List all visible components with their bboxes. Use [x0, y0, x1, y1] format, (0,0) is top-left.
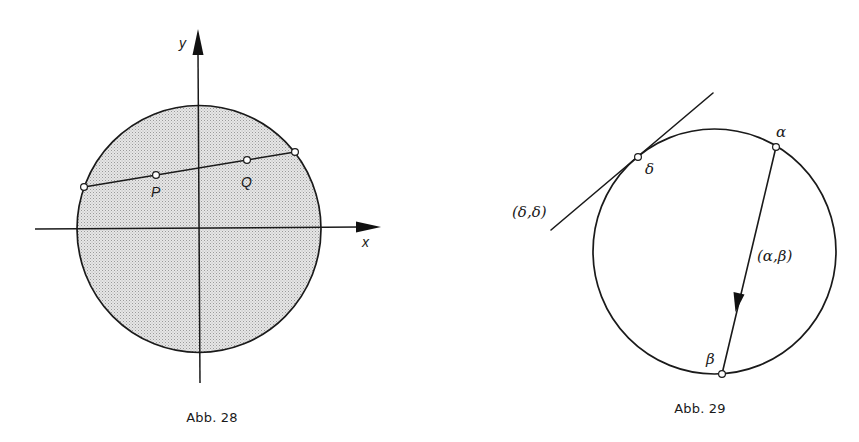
point-p [153, 172, 160, 179]
circle [593, 129, 836, 374]
x-axis-arrow-icon [356, 222, 381, 233]
point-alpha-label: α [776, 123, 786, 141]
point-p-label: P [151, 184, 161, 200]
figure-canvas: y x P Q Abb. 28 δ α β (δ,δ) (α,β) Abb. 2… [0, 0, 859, 442]
point-delta-label: δ [645, 160, 654, 178]
point-beta [719, 371, 726, 378]
chord-endpoint-right [292, 149, 299, 156]
figure-abb28: y x P Q Abb. 28 [35, 29, 381, 425]
point-alpha [773, 144, 780, 151]
tangent-label: (δ,δ) [512, 203, 547, 221]
point-q-label: Q [241, 174, 252, 190]
point-delta [635, 154, 642, 161]
point-q [244, 157, 251, 164]
chord-direction-arrow-icon [734, 292, 745, 312]
point-beta-label: β [705, 350, 715, 368]
tangent-line-delta [551, 93, 713, 230]
y-axis-label: y [178, 35, 187, 51]
chord-endpoint-left [81, 184, 88, 191]
figure-caption-abb28: Abb. 28 [186, 410, 238, 425]
y-axis-arrow-icon [193, 29, 204, 55]
x-axis-label: x [361, 234, 370, 250]
figure-caption-abb29: Abb. 29 [674, 401, 726, 416]
figure-abb29: δ α β (δ,δ) (α,β) Abb. 29 [512, 93, 836, 416]
chord-label: (α,β) [757, 247, 792, 265]
